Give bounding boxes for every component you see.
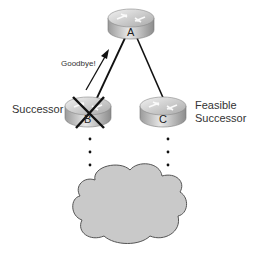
router-b-letter: B	[84, 113, 91, 125]
router-a-letter: A	[127, 26, 134, 38]
feasible-label-line1: Feasible	[195, 99, 237, 111]
ellipsis-dots-c	[167, 138, 170, 167]
successor-label: Successor	[12, 103, 63, 115]
goodbye-arrow-icon	[86, 49, 109, 90]
feasible-label-line2: Successor	[195, 112, 246, 124]
link-c-a	[137, 38, 164, 100]
ellipsis-dots-b	[89, 138, 92, 167]
goodbye-label: Goodbye!	[61, 59, 96, 68]
link-b-a	[96, 38, 125, 100]
router-c-letter: C	[159, 113, 167, 125]
feasible-successor-label: Feasible Successor	[195, 99, 246, 125]
network-cloud-icon	[73, 164, 187, 244]
